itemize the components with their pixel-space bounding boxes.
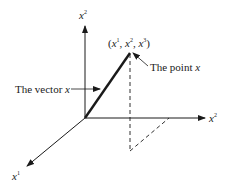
vector-x [85,53,130,118]
projection-diagonal [130,118,169,151]
point-label: The point x [150,62,200,73]
diagonal-axis [27,118,85,166]
point-label-pointer [133,53,148,66]
point-coordinates: (x1, x2, x3) [108,37,150,49]
vector-label: The vector x [15,84,70,95]
vertical-axis-label: x2 [79,9,87,21]
right-axis-label: x2 [209,112,217,124]
diagonal-axis-label: x1 [12,170,20,182]
